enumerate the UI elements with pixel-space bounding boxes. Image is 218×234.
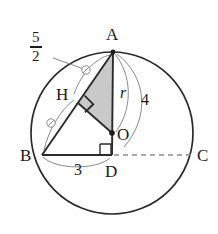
- measure-label-radius-r: r: [120, 85, 126, 101]
- measure-label-four: 4: [141, 92, 149, 108]
- right-angle-at-D-square: [100, 144, 111, 155]
- segment-AD: [112, 52, 113, 155]
- measure-label-five-halves: 5 2: [30, 30, 42, 64]
- point-label-C: C: [197, 147, 208, 164]
- point-label-B: B: [20, 147, 31, 164]
- shaded-triangle-AHO: [78, 52, 113, 133]
- measure-label-three: 3: [74, 162, 82, 178]
- point-label-D: D: [105, 163, 117, 180]
- right-angle-at-D-square-top: [100, 144, 111, 155]
- fraction-denominator: 2: [30, 49, 42, 64]
- leader-line-five-halves: [53, 58, 86, 70]
- point-label-O: O: [117, 126, 129, 143]
- point-label-A: A: [106, 26, 118, 43]
- point-label-H: H: [56, 86, 68, 103]
- fraction-numerator: 5: [30, 30, 42, 45]
- vertex-dot-A: [111, 50, 116, 55]
- vertex-dot-O: [109, 130, 115, 136]
